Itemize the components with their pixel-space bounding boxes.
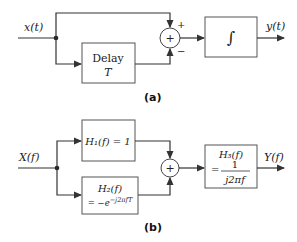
caption-b: (b) [144, 221, 162, 234]
delay-input-wire [56, 38, 81, 64]
h1-input-wire [57, 141, 81, 168]
caption-a: (a) [144, 91, 161, 104]
h3-equals: = [211, 164, 219, 175]
summer-bottom-sign: − [177, 46, 185, 57]
h2-label: H₂(f) [97, 183, 122, 194]
delay-label: Delay [92, 52, 124, 65]
output-label-Y-f: Y(f) [264, 151, 284, 164]
h3-numerator: 1 [232, 159, 238, 170]
h2-input-wire [57, 168, 81, 195]
block-diagrams: x(t) Delay T + + − ∫ y(t) (a) X(f) H₁(f)… [0, 0, 297, 242]
summer-plus-icon: + [165, 32, 174, 45]
summer-plus-icon: + [165, 162, 174, 175]
direct-path-wire [56, 13, 170, 38]
integral-icon: ∫ [227, 28, 235, 47]
diagram-a: x(t) Delay T + + − ∫ y(t) (a) [18, 13, 285, 104]
summer-top-sign: + [177, 19, 185, 30]
h1-label: H₁(f) = 1 [84, 136, 130, 147]
h3-label: H₃(f) [218, 149, 243, 160]
delay-output-wire [135, 49, 170, 64]
input-label-x-t: x(t) [24, 21, 43, 34]
h2-output-wire [138, 178, 170, 195]
h3-denominator: j2πf [223, 174, 247, 185]
diagram-b: X(f) H₁(f) = 1 H₂(f) = −e−j2πfT + H₃(f) … [18, 120, 284, 234]
input-label-X-f: X(f) [18, 151, 40, 164]
h1-output-wire [135, 141, 170, 158]
output-label-y-t: y(t) [265, 20, 285, 33]
